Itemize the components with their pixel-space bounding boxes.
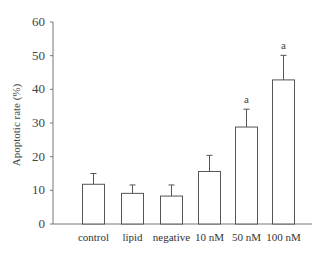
x-category-label: 100 nM	[266, 231, 301, 243]
y-tick-label: 20	[32, 149, 45, 164]
x-category-label: control	[78, 231, 109, 243]
x-category-label: lipid	[122, 231, 143, 243]
significance-marker: a	[281, 39, 286, 51]
y-axis-label: Apoptotic rate (%)	[10, 83, 23, 166]
bar	[236, 127, 258, 224]
bar	[273, 80, 295, 224]
bar-group: 10 nM	[195, 155, 224, 243]
bar-group: control	[78, 174, 109, 244]
bar-group: lipid	[122, 185, 144, 243]
y-axis: 0102030405060	[32, 14, 53, 231]
bar	[161, 196, 183, 224]
y-tick-label: 30	[32, 115, 45, 130]
y-tick-label: 50	[32, 48, 45, 63]
bar-group: negative	[153, 185, 190, 243]
bar-group: a50 nM	[232, 93, 261, 243]
bar-chart: 0102030405060 controllipidnegative10 nMa…	[0, 0, 325, 254]
y-tick-label: 40	[32, 81, 45, 96]
bar	[83, 184, 105, 224]
y-tick-label: 60	[32, 14, 45, 29]
x-category-label: 10 nM	[195, 231, 224, 243]
x-category-label: negative	[153, 231, 190, 243]
x-category-label: 50 nM	[232, 231, 261, 243]
y-tick-label: 10	[32, 182, 45, 197]
bar-group: a100 nM	[266, 39, 301, 243]
bar	[122, 193, 144, 224]
y-tick-label: 0	[39, 216, 46, 231]
bar	[199, 171, 221, 224]
significance-marker: a	[244, 93, 249, 105]
bars: controllipidnegative10 nMa50 nMa100 nM	[78, 39, 301, 243]
